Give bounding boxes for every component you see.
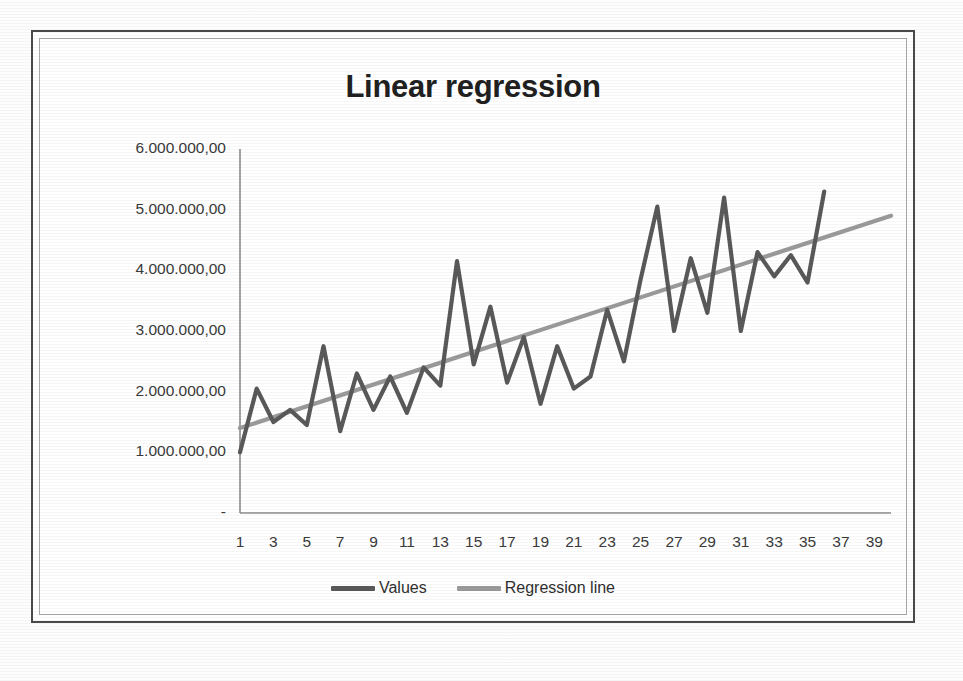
- scanned-page: Linear regression 6.000.000,005.000.000,…: [0, 0, 963, 681]
- legend-entry[interactable]: Regression line: [457, 579, 615, 597]
- legend-label: Values: [379, 579, 427, 597]
- regression-line-series: [240, 216, 891, 428]
- chart-legend: ValuesRegression line: [40, 579, 906, 597]
- legend-color-swatch: [331, 586, 375, 591]
- values-line-series: [240, 192, 824, 453]
- linear-regression-chart: Linear regression 6.000.000,005.000.000,…: [40, 39, 906, 614]
- legend-color-swatch: [457, 586, 501, 591]
- plot-area: [40, 39, 906, 614]
- legend-entry[interactable]: Values: [331, 579, 427, 597]
- legend-label: Regression line: [505, 579, 615, 597]
